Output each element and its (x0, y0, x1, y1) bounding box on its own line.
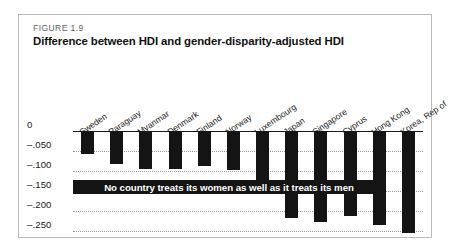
figure-screenshot: FIGURE 1.9 Difference between HDI and ge… (0, 0, 451, 252)
y-axis-tick-label: –.100 (27, 159, 52, 170)
y-axis-tick-label: 0 (27, 119, 32, 130)
bar (344, 131, 357, 216)
y-axis-tick-label: –.150 (27, 179, 52, 190)
bar (373, 131, 386, 225)
bar (402, 131, 415, 233)
figure-number: FIGURE 1.9 (33, 23, 84, 33)
figure-panel: FIGURE 1.9 Difference between HDI and ge… (18, 14, 432, 238)
bar-series (73, 41, 423, 233)
chart-annotation-text: No country treats its women as well as i… (104, 182, 354, 193)
chart-annotation-banner: No country treats its women as well as i… (73, 180, 385, 194)
y-axis-tick-label: –.200 (27, 199, 52, 210)
y-axis-tick-label: –.250 (27, 219, 52, 230)
bar (285, 131, 298, 218)
chart-plot-area: 0–.050–.100–.150–.200–.250 SwedenParagua… (27, 41, 425, 233)
y-axis-tick-label: –.050 (27, 139, 52, 150)
bar (314, 131, 327, 222)
